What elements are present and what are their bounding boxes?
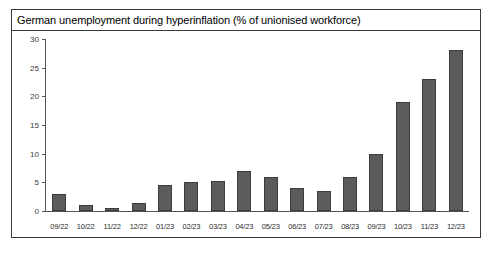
bar bbox=[369, 154, 383, 211]
y-axis-tick-label: 20 bbox=[12, 92, 39, 101]
bar-slot bbox=[416, 39, 442, 211]
bar-slot bbox=[363, 39, 389, 211]
bar bbox=[105, 208, 119, 211]
x-axis-label: 12/23 bbox=[447, 222, 465, 231]
y-axis-tick-mark bbox=[42, 125, 45, 126]
x-axis-label: 10/22 bbox=[77, 222, 95, 231]
x-axis-label: 08/23 bbox=[341, 222, 359, 231]
bar-slot bbox=[125, 39, 151, 211]
x-axis-label-slot: 11/22 bbox=[99, 215, 125, 233]
bar-slot bbox=[310, 39, 336, 211]
bar-slot bbox=[258, 39, 284, 211]
x-axis-label: 06/23 bbox=[288, 222, 306, 231]
x-axis-label-slot: 09/23 bbox=[363, 215, 389, 233]
x-axis-label: 05/23 bbox=[262, 222, 280, 231]
chart-container: German unemployment during hyperinflatio… bbox=[11, 9, 481, 238]
bar-slot bbox=[152, 39, 178, 211]
y-axis-tick-label: 15 bbox=[12, 121, 39, 130]
bar bbox=[343, 177, 357, 211]
x-axis-label-slot: 10/23 bbox=[390, 215, 416, 233]
x-axis-label-slot: 05/23 bbox=[258, 215, 284, 233]
bar-slot bbox=[231, 39, 257, 211]
y-axis-tick-mark bbox=[42, 211, 45, 212]
x-axis-label-slot: 12/22 bbox=[125, 215, 151, 233]
bar bbox=[158, 185, 172, 211]
x-axis-label: 10/23 bbox=[394, 222, 412, 231]
bar bbox=[264, 177, 278, 211]
y-axis-tick-label: 0 bbox=[12, 207, 39, 216]
chart-title: German unemployment during hyperinflatio… bbox=[17, 14, 361, 26]
bar-series bbox=[46, 39, 469, 211]
y-axis-tick-label: 30 bbox=[12, 35, 39, 44]
x-axis-label-slot: 08/23 bbox=[337, 215, 363, 233]
bar-slot bbox=[390, 39, 416, 211]
y-axis-tick-mark bbox=[42, 68, 45, 69]
x-axis-label-slot: 06/23 bbox=[284, 215, 310, 233]
bar bbox=[396, 102, 410, 211]
x-axis-label-slot: 10/22 bbox=[72, 215, 98, 233]
y-axis-tick-mark bbox=[42, 39, 45, 40]
bar-slot bbox=[443, 39, 469, 211]
bar bbox=[132, 203, 146, 211]
y-axis-tick-mark bbox=[42, 154, 45, 155]
bar-slot bbox=[72, 39, 98, 211]
x-axis-label: 07/23 bbox=[315, 222, 333, 231]
x-axis-label: 12/22 bbox=[130, 222, 148, 231]
bar bbox=[290, 188, 304, 211]
x-axis-line bbox=[45, 211, 469, 212]
x-axis-label-slot: 04/23 bbox=[231, 215, 257, 233]
y-axis-tick-mark bbox=[42, 96, 45, 97]
x-axis-label: 03/23 bbox=[209, 222, 227, 231]
x-axis-label-slot: 11/23 bbox=[416, 215, 442, 233]
x-axis-label-slot: 03/23 bbox=[205, 215, 231, 233]
x-axis-label-slot: 09/22 bbox=[46, 215, 72, 233]
bar bbox=[422, 79, 436, 211]
x-axis-label-slot: 01/23 bbox=[152, 215, 178, 233]
y-axis-tick-label: 10 bbox=[12, 149, 39, 158]
bar bbox=[317, 191, 331, 211]
bar-slot bbox=[284, 39, 310, 211]
y-axis-tick-label: 25 bbox=[12, 63, 39, 72]
bar bbox=[184, 182, 198, 211]
bar bbox=[449, 50, 463, 211]
bar-slot bbox=[205, 39, 231, 211]
y-axis-tick-mark bbox=[42, 182, 45, 183]
x-axis-label: 09/23 bbox=[368, 222, 386, 231]
x-axis-label: 11/22 bbox=[103, 222, 120, 231]
plot-area: 051015202530 09/2210/2211/2212/2201/2302… bbox=[12, 31, 480, 237]
bar-slot bbox=[99, 39, 125, 211]
bar bbox=[79, 205, 93, 211]
chart-title-bar: German unemployment during hyperinflatio… bbox=[12, 10, 480, 31]
bar bbox=[211, 181, 225, 211]
bar-slot bbox=[337, 39, 363, 211]
x-axis-label: 02/23 bbox=[183, 222, 201, 231]
bar-slot bbox=[46, 39, 72, 211]
x-axis-label-slot: 02/23 bbox=[178, 215, 204, 233]
bar-slot bbox=[178, 39, 204, 211]
bar bbox=[237, 171, 251, 211]
x-axis-label: 11/23 bbox=[421, 222, 438, 231]
x-axis-label: 04/23 bbox=[235, 222, 253, 231]
x-axis-label: 09/22 bbox=[50, 222, 68, 231]
x-axis-label-slot: 12/23 bbox=[443, 215, 469, 233]
x-axis-labels: 09/2210/2211/2212/2201/2302/2303/2304/23… bbox=[46, 215, 469, 233]
bar bbox=[52, 194, 66, 211]
x-axis-label-slot: 07/23 bbox=[310, 215, 336, 233]
y-axis-tick-label: 5 bbox=[12, 178, 39, 187]
x-axis-label: 01/23 bbox=[156, 222, 174, 231]
